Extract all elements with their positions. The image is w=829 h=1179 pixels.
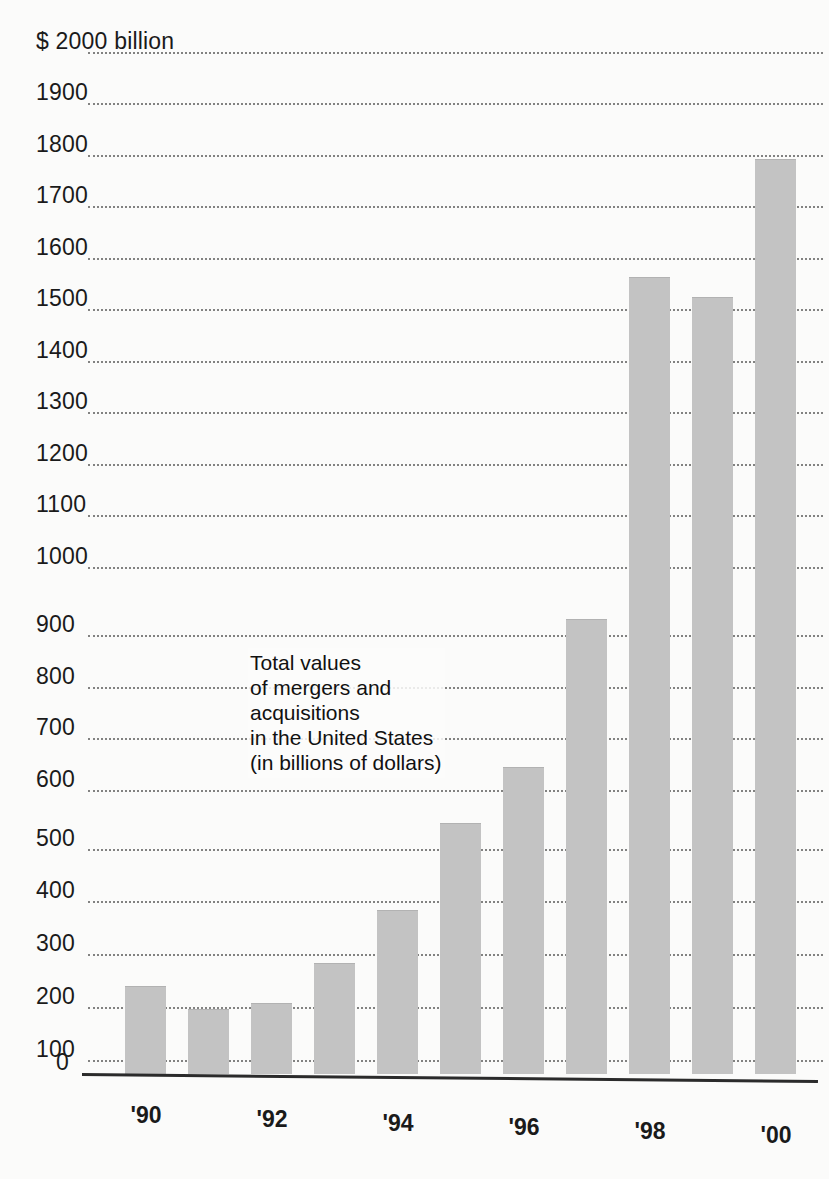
xtick-label-1996: '96 [494,1114,554,1141]
ytick-label-1800: 1800 [36,131,146,158]
xtick-label-2000: '00 [746,1122,806,1149]
xtick-label-1998: '98 [620,1118,680,1145]
ytick-label-900: 900 [36,611,146,638]
ytick-label-400: 400 [36,877,146,904]
bar-chart: $ 2000 billion 1900 1800 1700 1600 1500 … [0,0,829,1179]
annotation-line-1: Total values [250,650,441,675]
ytick-label-1500: 1500 [36,285,146,312]
ytick-label-500: 500 [36,825,146,852]
ytick-label-1300: 1300 [36,388,146,415]
bar-1992 [251,1003,292,1074]
ytick-label-1000: 1000 [36,543,146,570]
ytick-label-1200: 1200 [36,440,146,467]
annotation-line-3: acquisitions [250,700,441,725]
ytick-label-800: 800 [36,663,146,690]
bar-1994 [377,910,418,1074]
ytick-label-2000: $ 2000 billion [36,28,146,55]
xtick-label-1994: '94 [368,1110,428,1137]
ytick-label-300: 300 [36,930,146,957]
gridline-2000 [88,52,823,54]
gridline-1600 [88,258,823,260]
bar-1991 [188,1009,229,1074]
ytick-label-600: 600 [36,766,146,793]
gridline-1800 [88,155,823,157]
gridline-1700 [88,206,823,208]
bar-1997 [566,619,607,1074]
ytick-label-1900: 1900 [36,79,146,106]
ytick-label-1100: 1100 [36,491,146,518]
chart-annotation: Total values of mergers and acquisitions… [248,648,445,778]
ytick-label-700: 700 [36,714,146,741]
ytick-label-1700: 1700 [36,182,146,209]
xtick-label-1990: '90 [116,1102,176,1129]
bar-1995 [440,823,481,1074]
bar-1998 [629,277,670,1074]
plot-area: $ 2000 billion 1900 1800 1700 1600 1500 … [0,0,829,1179]
bar-2000 [755,159,796,1074]
gridline-1900 [88,103,823,105]
bar-1996 [503,767,544,1074]
annotation-line-5: (in billions of dollars) [250,750,441,775]
bar-1993 [314,963,355,1074]
ytick-label-1600: 1600 [36,234,146,261]
annotation-line-4: in the United States [250,725,441,750]
x-axis-line [82,1073,818,1083]
xtick-label-1992: '92 [242,1106,302,1133]
ytick-label-1400: 1400 [36,337,146,364]
bar-1999 [692,297,733,1074]
bar-1990 [125,986,166,1074]
annotation-line-2: of mergers and [250,675,441,700]
